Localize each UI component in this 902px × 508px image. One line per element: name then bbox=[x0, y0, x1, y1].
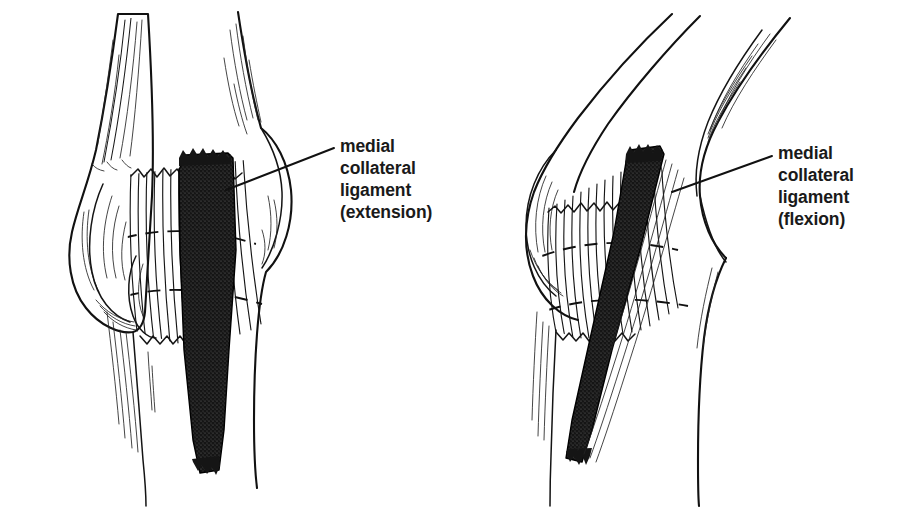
label-flexion-line3: ligament bbox=[778, 187, 849, 207]
label-flexion-line1: medial bbox=[778, 143, 833, 163]
anatomical-figure: medial collateral ligament (extension) bbox=[0, 0, 902, 508]
label-flexion-line4: (flexion) bbox=[778, 209, 845, 229]
elbow-ligament-illustration: medial collateral ligament (extension) bbox=[0, 0, 902, 508]
label-extension-line1: medial bbox=[340, 136, 395, 156]
label-flexion-line2: collateral bbox=[778, 165, 854, 185]
label-extension-line4: (extension) bbox=[340, 202, 432, 222]
label-extension-line3: ligament bbox=[340, 180, 411, 200]
label-extension-line2: collateral bbox=[340, 158, 416, 178]
